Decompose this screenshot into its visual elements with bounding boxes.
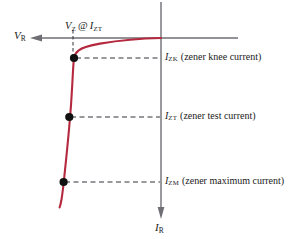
horizontal-axis-arrowhead <box>30 35 42 42</box>
data-point-izt <box>65 113 73 121</box>
x-axis-label: VR <box>14 30 26 42</box>
zener-characteristic-figure: VR IR VZ@IZT IZK(zener knee current) IZT… <box>0 0 300 239</box>
x-axis-label-symbol: V <box>14 29 21 41</box>
izt-subscript: ZT <box>168 114 177 121</box>
data-point-izk <box>70 54 78 62</box>
izm-description: (zener maximum current) <box>179 175 284 186</box>
izt-description: (zener test current) <box>177 110 256 121</box>
zener-voltage-annotation: VZ@IZT <box>65 21 102 33</box>
izt-annotation-subscript: ZT <box>93 25 102 33</box>
data-point-izm <box>60 178 68 186</box>
vertical-axis-arrowhead <box>158 207 165 219</box>
y-axis-label-subscript: R <box>159 226 164 235</box>
at-sign: @ <box>76 20 90 31</box>
marker-label-izk: IZK(zener knee current) <box>165 52 261 63</box>
marker-label-izt: IZT(zener test current) <box>165 111 256 122</box>
y-axis-label: IR <box>155 222 164 234</box>
izk-description: (zener knee current) <box>178 51 262 62</box>
izk-subscript: ZK <box>168 55 177 62</box>
x-axis-label-subscript: R <box>21 34 26 43</box>
izm-subscript: ZM <box>168 179 179 186</box>
marker-label-izm: IZM(zener maximum current) <box>165 176 284 187</box>
